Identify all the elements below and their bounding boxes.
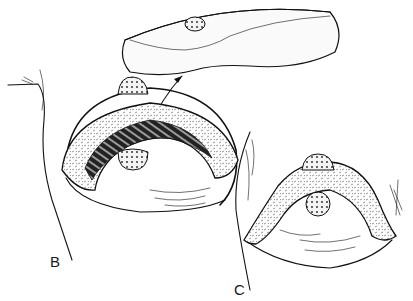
panel-b-areola-bottom bbox=[118, 149, 148, 170]
panel-b-breast bbox=[8, 70, 238, 260]
panel-c-breast bbox=[236, 132, 402, 290]
excised-specimen bbox=[122, 9, 339, 74]
panel-c-areola-top bbox=[302, 154, 334, 170]
panel-c-nipple-areola bbox=[306, 192, 330, 216]
panel-label-c: C bbox=[234, 281, 245, 298]
panel-b-areola-top bbox=[118, 77, 148, 94]
illustration-canvas bbox=[0, 0, 413, 301]
panel-label-b: B bbox=[50, 253, 60, 270]
specimen-areola bbox=[185, 17, 205, 31]
